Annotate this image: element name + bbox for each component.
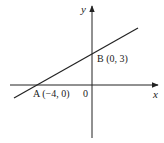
x-axis-label: x xyxy=(152,88,158,100)
y-axis-label: y xyxy=(80,3,86,15)
origin-label: 0 xyxy=(83,88,88,99)
point-b-label: B (0, 3) xyxy=(97,53,128,65)
point-a-label: A (−4, 0) xyxy=(33,88,69,100)
coordinate-diagram: y x 0 B (0, 3) A (−4, 0) xyxy=(0,0,164,143)
